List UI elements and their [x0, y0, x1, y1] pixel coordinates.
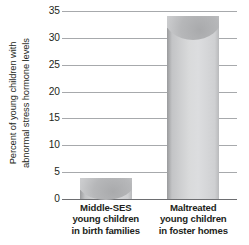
- y-axis-title-line-1: Percent of young children with: [7, 38, 20, 168]
- x-category-0-line-2: in birth families: [62, 225, 150, 236]
- bar-cap-1: [167, 16, 219, 46]
- x-category-0-line-1: young children: [62, 213, 150, 224]
- bar-series: [62, 11, 237, 199]
- y-tick-label-25: 25: [34, 60, 60, 70]
- bar-1: [167, 16, 219, 199]
- y-tick-label-20: 20: [34, 86, 60, 96]
- x-category-1-line-1: young children: [150, 213, 238, 224]
- x-category-label-0: Middle-SESyoung childrenin birth familie…: [62, 202, 150, 236]
- y-tick-label-35: 35: [34, 6, 60, 16]
- x-axis-category-labels: Middle-SESyoung childrenin birth familie…: [62, 202, 237, 245]
- bar-0: [80, 178, 132, 199]
- y-tick-label-10: 10: [34, 140, 60, 150]
- plot-area: [62, 11, 237, 199]
- x-category-1-line-2: in foster homes: [150, 225, 238, 236]
- y-axis-title: Percent of young children with abnormal …: [0, 0, 38, 205]
- bar-cap-0: [80, 178, 132, 200]
- x-category-label-1: Maltreatedyoung childrenin foster homes: [150, 202, 238, 236]
- y-tick-label-5: 5: [34, 167, 60, 177]
- y-tick-label-30: 30: [34, 33, 60, 43]
- y-axis-tick-labels: 05101520253035: [34, 0, 60, 205]
- y-axis-title-line-2: abnormal stress hormone levels: [19, 38, 32, 168]
- x-category-0-line-0: Middle-SES: [62, 202, 150, 213]
- y-axis-title-text: Percent of young children with abnormal …: [7, 38, 32, 168]
- y-tick-label-15: 15: [34, 113, 60, 123]
- bar-chart: Percent of young children with abnormal …: [0, 0, 249, 245]
- x-category-1-line-0: Maltreated: [150, 202, 238, 213]
- y-tick-label-0: 0: [34, 194, 60, 204]
